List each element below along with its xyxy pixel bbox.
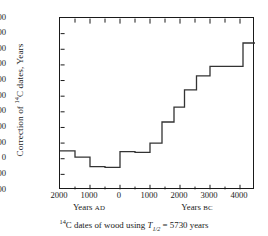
y-tick-label: 0 xyxy=(0,153,6,161)
step-curve-svg xyxy=(60,18,255,190)
y-tick-label: -100 xyxy=(0,169,6,177)
y-tick-label: +600 xyxy=(0,59,6,67)
radiocarbon-correction-figure: Correction of 14C dates, Years +900+800+… xyxy=(0,0,268,236)
x-axis-label-ad: Years AD xyxy=(44,202,134,212)
caption-text-a: C dates of wood using xyxy=(66,220,148,230)
y-tick-label: +900 xyxy=(0,13,6,21)
figure-caption: 14C dates of wood using T1/2 = 5730 year… xyxy=(0,218,268,232)
x-axis-label-bc: Years BC xyxy=(152,202,242,212)
era-left-word: Years xyxy=(73,202,93,212)
y-tick-label: +400 xyxy=(0,91,6,99)
era-right-suffix: BC xyxy=(203,204,213,211)
era-right-word: Years xyxy=(181,202,201,212)
x-tick-label: 4000 xyxy=(219,190,259,200)
y-tick-label: +500 xyxy=(0,75,6,83)
axis-ticks xyxy=(61,19,240,190)
correction-step-line xyxy=(60,43,255,167)
caption-text-b: = 5730 years xyxy=(160,220,208,230)
y-tick-label: +700 xyxy=(0,44,6,52)
plot-area xyxy=(59,17,254,189)
era-left-suffix: AD xyxy=(95,204,105,211)
y-tick-label: +200 xyxy=(0,122,6,130)
y-tick-label: +300 xyxy=(0,106,6,114)
y-tick-label: -200 xyxy=(0,185,6,193)
y-tick-label: +800 xyxy=(0,28,6,36)
y-tick-label: +100 xyxy=(0,138,6,146)
